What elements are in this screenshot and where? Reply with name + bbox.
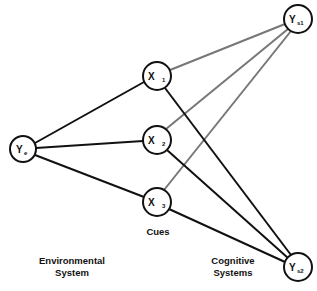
- cognitive-label-line2: Systems: [198, 267, 268, 279]
- environmental-label-line2: System: [22, 267, 122, 279]
- environmental-system-label: Environmental System: [22, 255, 122, 279]
- node-x2: X 2: [143, 126, 171, 154]
- node-x3: X 3: [143, 188, 171, 216]
- edge-ye-x2: [36, 141, 143, 148]
- cognitive-systems-label: Cognitive Systems: [198, 255, 268, 279]
- edge-x1-ys1: [170, 24, 285, 70]
- node-ye: Y e: [10, 136, 36, 162]
- node-x1: X 1: [143, 62, 171, 90]
- edge-x1-ys2: [165, 88, 291, 255]
- svg-text:X: X: [148, 135, 155, 146]
- svg-text:Y: Y: [289, 262, 296, 273]
- cues-label: Cues: [138, 226, 178, 238]
- node-ys1: Y s1: [284, 5, 312, 33]
- edge-ye-x3: [35, 155, 144, 197]
- edge-x2-ys2: [167, 150, 288, 258]
- svg-text:s2: s2: [297, 268, 304, 274]
- node-ys2: Y s2: [284, 253, 312, 281]
- lens-model-diagram: Y e X 1 X 2 X 3 Y s1 Y s2: [0, 0, 317, 291]
- environmental-label-line1: Environmental: [22, 255, 122, 267]
- svg-text:X: X: [148, 197, 155, 208]
- edge-ye-x1: [35, 82, 144, 143]
- svg-text:s1: s1: [297, 20, 304, 26]
- cognitive-label-line1: Cognitive: [198, 255, 268, 267]
- svg-text:Y: Y: [16, 144, 23, 155]
- svg-text:Y: Y: [289, 14, 296, 25]
- svg-text:X: X: [148, 71, 155, 82]
